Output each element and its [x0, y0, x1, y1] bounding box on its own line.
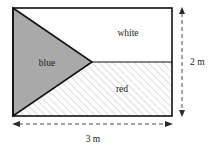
geometry-diagram: white blue red 2 m 3 m — [0, 0, 213, 146]
region-label-white: white — [117, 28, 138, 38]
height-arrow-bottom-icon — [179, 110, 185, 117]
height-arrow-top-icon — [179, 7, 185, 14]
region-label-blue: blue — [39, 58, 55, 68]
region-label-red: red — [116, 84, 128, 94]
width-arrow-left-icon — [12, 121, 20, 127]
figure-container: white blue red 2 m 3 m — [0, 0, 213, 146]
height-dimension-label: 2 m — [190, 57, 205, 67]
width-dimension-label: 3 m — [86, 134, 101, 144]
width-arrow-right-icon — [165, 121, 173, 127]
